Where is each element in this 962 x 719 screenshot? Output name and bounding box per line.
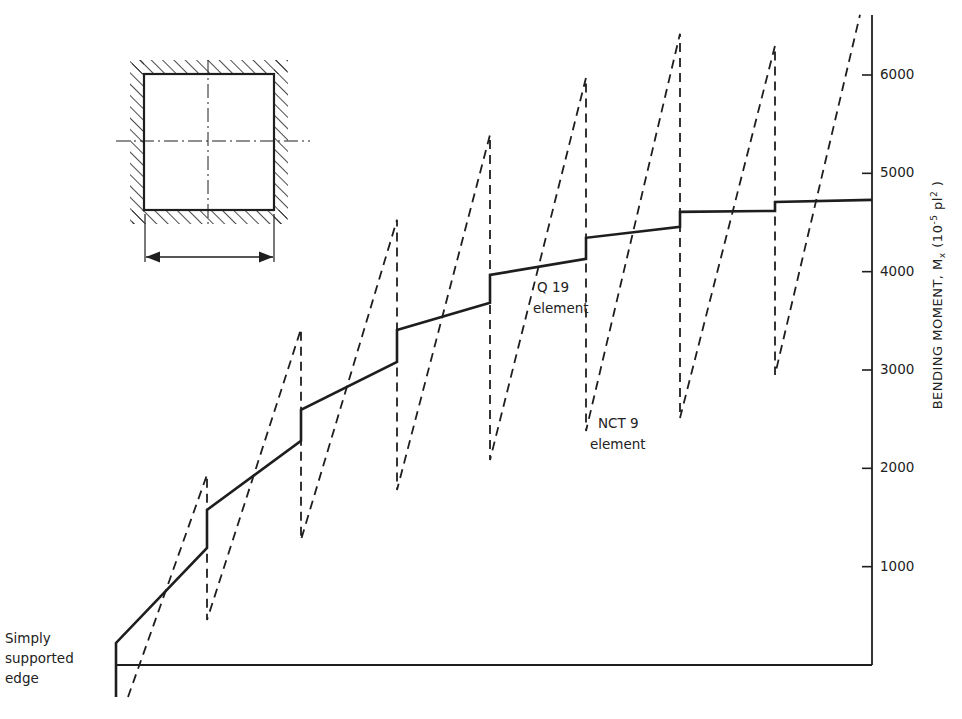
y-tick-label: 5000 xyxy=(880,164,914,180)
y-tick-label: 3000 xyxy=(880,361,914,377)
nct9-label-line2: element xyxy=(590,436,646,453)
y-tick-label: 2000 xyxy=(880,459,914,475)
simply-supported-label-line1: Simply xyxy=(5,630,51,647)
q19-label-line1: Q 19 xyxy=(537,279,569,296)
q19-label-line2: element xyxy=(533,300,589,317)
q19-solid-line xyxy=(116,200,872,697)
simply-supported-label-line3: edge xyxy=(5,670,39,687)
y-tick-label: 1000 xyxy=(880,558,914,574)
simply-supported-label-line2: supported xyxy=(5,650,74,667)
hatch-left xyxy=(130,60,144,224)
plate-inset-diagram xyxy=(116,60,310,262)
plate-outline xyxy=(144,74,274,210)
hatch-right xyxy=(274,60,288,224)
y-tick-label: 6000 xyxy=(880,66,914,82)
hatch-bottom xyxy=(132,210,287,224)
bending-moment-chart xyxy=(0,0,962,719)
y-tick-label: 4000 xyxy=(880,263,914,279)
y-axis-ticks xyxy=(862,75,872,567)
nct9-label-line1: NCT 9 xyxy=(598,415,639,432)
hatch-top xyxy=(132,60,287,74)
y-axis-label: BENDING MOMENT, Mx (10-5 pl2 ) xyxy=(929,181,948,410)
